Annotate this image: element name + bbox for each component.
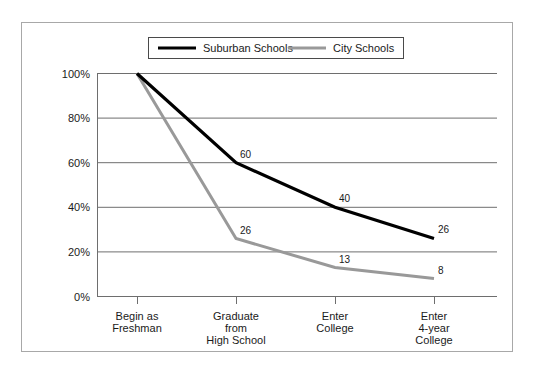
xtick-label-enter-4-year-college-line3: College <box>415 334 452 346</box>
legend-label-city-schools: City Schools <box>333 42 395 54</box>
chart-legend: Suburban Schools City Schools <box>149 38 404 59</box>
xtick-label-graduate-high-school: Graduate <box>213 310 259 322</box>
ytick-label: 20% <box>68 246 90 258</box>
x-axis-tickmarks <box>138 297 435 305</box>
ytick-label: 0% <box>74 291 90 303</box>
data-label-suburban-enter-4-year: 26 <box>438 224 450 235</box>
ytick-label: 100% <box>62 68 90 80</box>
xtick-label-begin-as-freshman-line2: Freshman <box>112 322 162 334</box>
data-label-suburban-enter-college: 40 <box>339 193 351 204</box>
xtick-label-enter-4-year-college: Enter <box>421 310 448 322</box>
xtick-label-enter-4-year-college-line2: 4-year <box>418 322 450 334</box>
data-label-city-graduate: 26 <box>240 225 252 236</box>
xtick-label-enter-college: Enter <box>322 310 349 322</box>
xtick-label-graduate-high-school-line2: from <box>225 322 247 334</box>
series-line-suburban-schools <box>137 74 434 239</box>
x-axis-category-labels: Begin as Freshman Graduate from High Sch… <box>112 310 452 346</box>
legend-label-suburban-schools: Suburban Schools <box>203 42 293 54</box>
line-chart: 100% 80% 60% 40% 20% 0% Begin as Freshma… <box>0 0 533 371</box>
data-labels-suburban-schools: 60 40 26 <box>240 149 450 235</box>
y-axis-tick-labels: 100% 80% 60% 40% 20% 0% <box>62 68 90 303</box>
xtick-label-begin-as-freshman: Begin as <box>116 310 159 322</box>
xtick-label-graduate-high-school-line3: High School <box>206 334 265 346</box>
ytick-label: 80% <box>68 112 90 124</box>
series-line-city-schools <box>137 74 434 279</box>
xtick-label-enter-college-line2: College <box>316 322 353 334</box>
ytick-label: 40% <box>68 201 90 213</box>
ytick-label: 60% <box>68 157 90 169</box>
data-label-city-enter-college: 13 <box>339 254 351 265</box>
data-label-suburban-graduate: 60 <box>240 149 252 160</box>
data-label-city-enter-4-year: 8 <box>438 265 444 276</box>
